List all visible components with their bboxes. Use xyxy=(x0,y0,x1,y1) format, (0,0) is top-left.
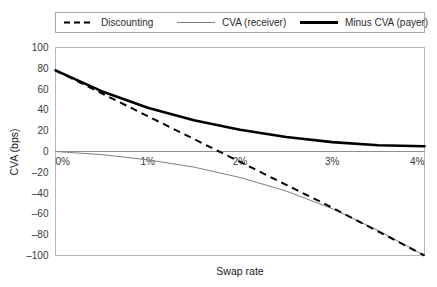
y-tick-label: –40 xyxy=(32,188,49,199)
x-tick-label: 0% xyxy=(56,156,71,167)
y-tick-label: –80 xyxy=(32,229,49,240)
y-tick-label: 100 xyxy=(32,42,49,53)
x-tick-label: 3% xyxy=(325,156,340,167)
y-tick-label: 20 xyxy=(37,125,49,136)
x-axis-title: Swap rate xyxy=(216,265,263,277)
y-tick-label: 40 xyxy=(37,104,49,115)
y-tick-label: –100 xyxy=(26,250,49,261)
chart-legend: Discounting CVA (receiver) Minus CVA (pa… xyxy=(56,13,429,33)
y-tick-label: –60 xyxy=(32,208,49,219)
legend-label-discounting: Discounting xyxy=(101,17,153,28)
cva-line-chart: Discounting CVA (receiver) Minus CVA (pa… xyxy=(0,0,437,287)
y-tick-label: 80 xyxy=(37,63,49,74)
x-tick-label: 4% xyxy=(410,156,425,167)
y-tick-label: 0 xyxy=(43,146,49,157)
y-tick-label: –20 xyxy=(32,167,49,178)
y-tick-label: 60 xyxy=(37,84,49,95)
y-axis-title: CVA (bps) xyxy=(8,128,20,175)
chart-container: Discounting CVA (receiver) Minus CVA (pa… xyxy=(0,0,437,287)
legend-label-minus-cva-payer: Minus CVA (payer) xyxy=(345,17,428,28)
legend-label-cva-receiver: CVA (receiver) xyxy=(222,17,286,28)
